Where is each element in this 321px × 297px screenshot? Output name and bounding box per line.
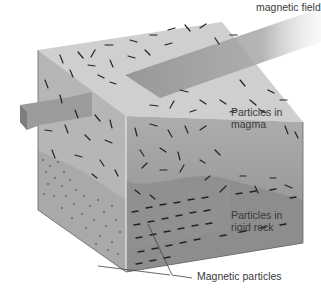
block-diagram-illustration [0,0,321,297]
label-particles-in-rigid-rock: Particles in rigid rock [231,210,282,233]
label-magnetic-field: magnetic field [256,2,321,14]
label-magnetic-particles: Magnetic particles [197,271,282,283]
label-particles-in-magma: Particles in magma [231,107,282,130]
magnetic-particles-block-diagram: magnetic field Particles in magma Partic… [0,0,321,297]
